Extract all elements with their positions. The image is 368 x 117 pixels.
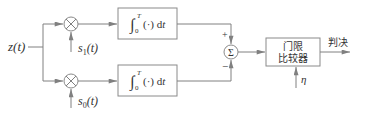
- lower-limit: 0: [135, 84, 139, 92]
- sigma-icon: Σ: [228, 47, 234, 58]
- threshold-label: η: [301, 73, 306, 85]
- upper-integrator: ∫ T 0 (·) dt: [118, 8, 177, 39]
- minus-sign: −: [222, 60, 228, 72]
- input-signal: z(t): [7, 24, 43, 81]
- upper-branch: s1(t) ∫ T 0 (·) dt +: [43, 8, 231, 57]
- block-diagram: z(t) s1(t) ∫ T 0 (·) dt +: [0, 0, 368, 117]
- plus-sign: +: [222, 29, 228, 40]
- s1-label: s1(t): [78, 41, 98, 57]
- lower-multiplier: [64, 74, 78, 88]
- summer: Σ: [224, 45, 238, 59]
- threshold-comparator: 门限 比较器: [266, 38, 320, 66]
- lower-branch: s0(t) ∫ T 0 (·) dt −: [43, 60, 231, 110]
- lower-integrator: ∫ T 0 (·) dt: [118, 65, 177, 96]
- comparator-label-line2: 比较器: [278, 52, 308, 64]
- lower-limit: 0: [135, 27, 139, 35]
- integrand: (·) dt: [143, 18, 166, 31]
- integrand: (·) dt: [143, 75, 166, 88]
- upper-multiplier: [64, 17, 78, 31]
- s0-label: s0(t): [78, 94, 98, 110]
- output-label: 判决: [328, 37, 348, 48]
- input-label: z(t): [7, 39, 25, 54]
- comparator-label-line1: 门限: [283, 40, 303, 52]
